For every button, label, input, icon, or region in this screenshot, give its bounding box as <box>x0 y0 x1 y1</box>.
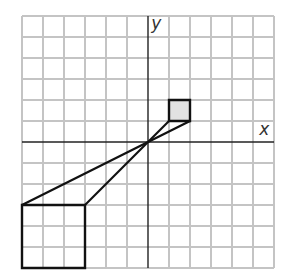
small-quadrilateral <box>169 100 190 121</box>
x-axis-label: x <box>258 119 270 139</box>
y-axis-label: y <box>150 13 162 33</box>
coordinate-grid-diagram: x y <box>0 0 286 274</box>
grid-svg: x y <box>0 0 286 274</box>
large-quadrilateral <box>22 205 85 268</box>
